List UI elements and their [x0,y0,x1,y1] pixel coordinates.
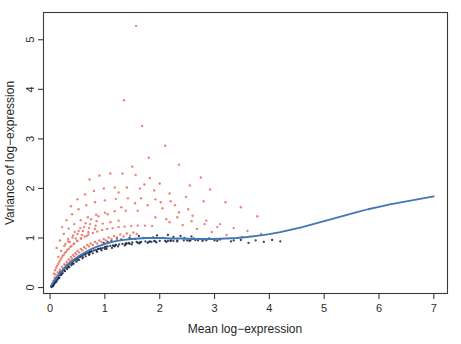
data-point [72,234,74,236]
data-point [149,177,151,179]
data-point [63,233,65,235]
data-point [170,240,172,242]
y-tick-label: 2 [25,185,37,191]
data-point [188,240,190,242]
data-point [191,214,193,216]
data-point [216,240,218,242]
data-point [174,204,176,206]
data-point [54,269,56,271]
data-point [59,239,61,241]
data-point [83,226,85,228]
data-point [76,198,78,200]
data-point [111,227,113,229]
data-point [106,228,108,230]
data-point [87,216,89,218]
data-point [108,236,110,238]
data-point [81,234,83,236]
x-tick-label: 4 [266,302,272,314]
data-point [131,243,133,245]
data-point [104,212,106,214]
data-point [114,186,116,188]
data-point [73,223,75,225]
data-point [88,253,90,255]
data-point [209,188,211,190]
data-point [202,200,204,202]
data-point [187,208,189,210]
data-point [64,243,66,245]
data-point [130,225,132,227]
data-point [117,219,119,221]
data-point [73,255,75,257]
data-point [240,239,242,241]
data-point [254,239,256,241]
data-point [57,256,59,258]
y-tick-label: 3 [25,136,37,142]
data-point [154,198,156,200]
y-tick-label: 1 [25,235,37,241]
data-point [109,245,111,247]
data-point [189,184,191,186]
data-point [94,228,96,230]
data-point [88,227,90,229]
data-point [89,223,91,225]
data-point [93,190,95,192]
data-point [110,238,112,240]
data-point [76,240,78,242]
data-point [131,165,133,167]
data-point [106,213,108,215]
data-point [61,255,63,257]
data-point [122,235,124,237]
data-point [246,230,248,232]
data-point [156,234,158,236]
data-point [139,241,141,243]
data-point [76,233,78,235]
x-tick-label: 6 [376,302,382,314]
data-point [119,233,121,235]
data-point [89,242,91,244]
data-point [182,224,184,226]
data-point [88,245,90,247]
figure-background [0,0,461,344]
data-point [69,246,71,248]
data-point [216,226,218,228]
data-point [146,204,148,206]
x-axis-title: Mean log−expression [188,322,302,336]
data-point [96,242,98,244]
data-point [109,221,111,223]
data-point [94,224,96,226]
data-point [102,222,104,224]
data-point [247,242,249,244]
data-point [144,224,146,226]
data-point [164,145,166,147]
data-point [87,231,89,233]
data-point [168,192,170,194]
data-point [60,250,62,252]
data-point [120,206,122,208]
data-point [167,240,169,242]
data-point [279,240,281,242]
data-point [85,222,87,224]
data-point [127,197,129,199]
data-point [117,226,119,228]
data-point [85,204,87,206]
data-point [121,243,123,245]
data-point [77,208,79,210]
data-point [71,263,73,265]
data-point [71,213,73,215]
data-point [117,245,119,247]
data-point [92,252,94,254]
data-point [154,216,156,218]
data-point [135,25,137,27]
y-tick-label: 4 [25,86,37,92]
data-point [179,235,181,237]
data-point [203,223,205,225]
data-point [83,235,85,237]
x-tick-label: 5 [321,302,327,314]
data-point [138,235,140,237]
data-point [219,223,221,225]
data-point [98,174,100,176]
data-point [116,236,118,238]
data-point [211,231,213,233]
data-point [79,227,81,229]
data-point [137,224,139,226]
